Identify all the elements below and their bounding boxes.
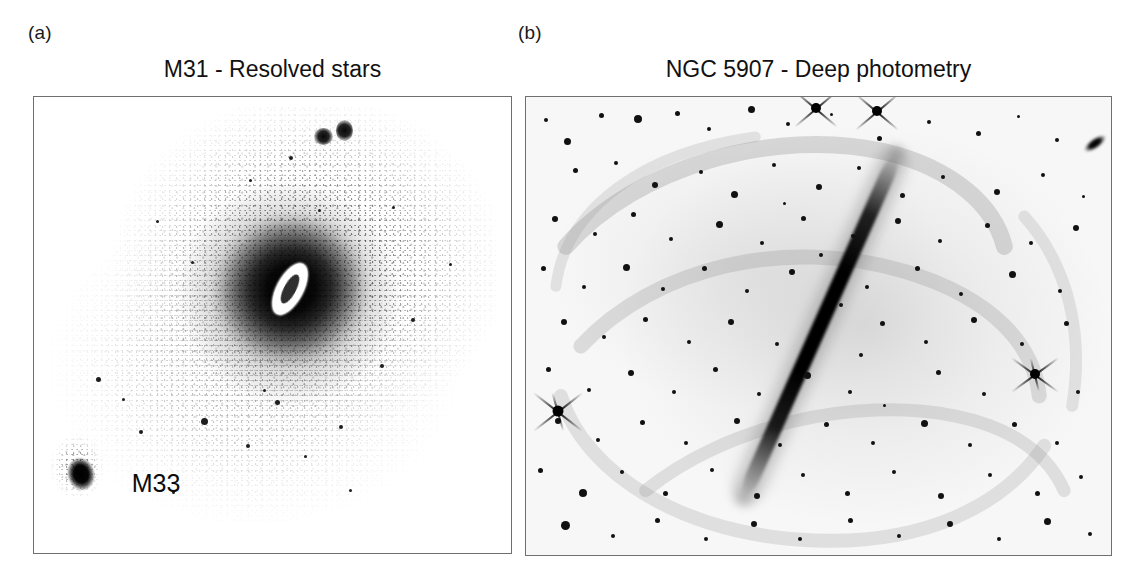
ngc5907-plate [526, 97, 1111, 555]
bright-star-diffraction-lower-left [526, 376, 593, 446]
star-field [526, 97, 1111, 555]
panel-b-image-frame [525, 96, 1112, 556]
panel-a-label: (a) [28, 23, 52, 42]
m31-plate: M33 [34, 97, 511, 553]
m33-label: M33 [132, 471, 181, 496]
bright-star-diffraction-right [1002, 341, 1068, 407]
panel-a-image-frame: M33 [33, 96, 512, 554]
panel-a-title: M31 - Resolved stars [33, 57, 512, 81]
bright-star-diffraction-top-left [785, 97, 847, 139]
panel-b-label: (b) [518, 23, 542, 42]
panel-b-title: NGC 5907 - Deep photometry [525, 57, 1112, 81]
figure-root: (a) M31 - Resolved stars [0, 0, 1131, 573]
bright-star-diffraction-top-right [846, 97, 908, 142]
